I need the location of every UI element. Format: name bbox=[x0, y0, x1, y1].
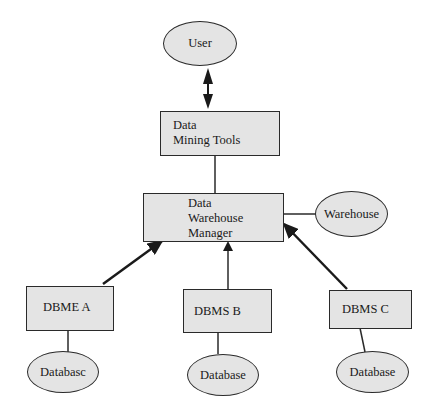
warehouse-node: Warehouse bbox=[315, 191, 388, 237]
database-a-node: Databasc bbox=[27, 351, 99, 393]
dbms-b-label: DBMS B bbox=[194, 304, 241, 318]
dbms-a-node: DBME A bbox=[26, 286, 114, 331]
dbms-b-node: DBMS B bbox=[183, 289, 272, 333]
dbms-a-arrow bbox=[103, 241, 162, 284]
dw-manager-label-3: Manager bbox=[188, 226, 283, 241]
data-mining-tools-node: Data Mining Tools bbox=[160, 111, 280, 156]
database-a-label: Databasc bbox=[40, 365, 86, 380]
database-c-node: Database bbox=[336, 351, 409, 393]
warehouse-label: Warehouse bbox=[324, 207, 379, 222]
user-node: User bbox=[163, 21, 237, 66]
mining-tools-label-2: Mining Tools bbox=[173, 133, 279, 148]
dbms-c-label: DBMS C bbox=[342, 302, 389, 316]
dbms-c-db-line bbox=[360, 328, 365, 352]
data-warehouse-manager-node: Data Warehouse Manager bbox=[143, 193, 284, 242]
dw-manager-label-1: Data bbox=[188, 196, 283, 211]
database-c-label: Database bbox=[350, 365, 396, 380]
user-label: User bbox=[188, 36, 212, 51]
dw-manager-label-2: Warehouse bbox=[188, 211, 283, 226]
mining-tools-label-1: Data bbox=[173, 118, 279, 133]
database-b-label: Database bbox=[200, 368, 246, 383]
dbms-c-node: DBMS C bbox=[329, 290, 412, 329]
dbms-a-label: DBME A bbox=[43, 300, 91, 314]
database-b-node: Database bbox=[187, 354, 259, 396]
arrow-down-icon bbox=[203, 94, 213, 109]
arrow-up-icon bbox=[203, 68, 213, 84]
